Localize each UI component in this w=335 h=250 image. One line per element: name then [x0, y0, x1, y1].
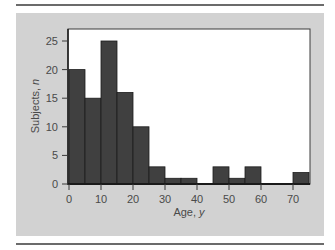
- x-ticks: 010203040506070: [66, 184, 299, 205]
- y-ticks: 0510152025: [46, 35, 68, 190]
- x-tick-label: 70: [287, 193, 299, 205]
- histogram-bar: [293, 173, 309, 184]
- y-tick-label: 10: [46, 121, 58, 133]
- histogram-bar: [85, 98, 101, 184]
- histogram-bar: [245, 167, 261, 184]
- histogram-bar: [133, 127, 149, 184]
- x-tick-label: 0: [66, 193, 72, 205]
- x-axis-title: Age, y: [173, 206, 206, 218]
- y-tick-label: 15: [46, 92, 58, 104]
- x-tick-label: 10: [95, 193, 107, 205]
- y-tick-label: 5: [52, 149, 58, 161]
- y-tick-label: 25: [46, 35, 58, 47]
- y-tick-label: 0: [52, 178, 58, 190]
- histogram-bar: [117, 92, 133, 184]
- x-tick-label: 30: [159, 193, 171, 205]
- histogram-bar: [213, 167, 229, 184]
- x-tick-label: 20: [127, 193, 139, 205]
- y-tick-label: 20: [46, 64, 58, 76]
- histogram-chart: 010203040506070 0510152025 Age, y Subjec…: [0, 0, 335, 250]
- histogram-bar: [149, 167, 165, 184]
- x-tick-label: 40: [191, 193, 203, 205]
- histogram-bar: [101, 41, 117, 184]
- x-tick-label: 60: [255, 193, 267, 205]
- y-axis-title: Subjects, n: [29, 79, 41, 133]
- histogram-bar: [69, 70, 85, 184]
- x-tick-label: 50: [223, 193, 235, 205]
